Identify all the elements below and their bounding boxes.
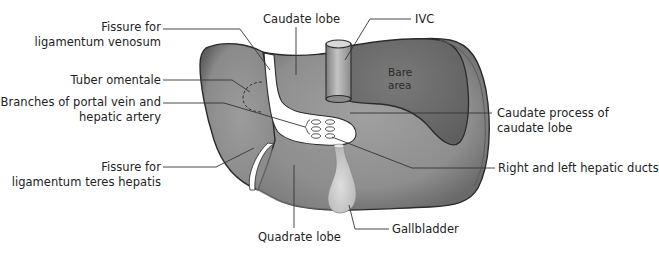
label-fissure-teres-line2: ligamentum teres hepatis	[12, 175, 161, 190]
label-fissure-venosum: Fissure for ligamentum venosum	[34, 20, 161, 50]
label-caudate-process: Caudate process of caudate lobe	[497, 106, 609, 136]
label-fissure-venosum-line2: ligamentum venosum	[34, 35, 161, 50]
label-quadrate-lobe: Quadrate lobe	[258, 230, 341, 245]
label-bare-area-line1: Bare	[388, 66, 412, 79]
label-tuber-omentale: Tuber omentale	[71, 73, 161, 88]
ivc-cylinder	[326, 40, 351, 103]
label-ivc: IVC	[415, 12, 434, 27]
label-portal-branches: Branches of portal vein and hepatic arte…	[0, 95, 161, 125]
label-caudate-process-line1: Caudate process of	[497, 106, 609, 121]
label-fissure-venosum-line1: Fissure for	[34, 20, 161, 35]
label-portal-branches-line1: Branches of portal vein and	[0, 95, 161, 110]
label-portal-branches-line2: hepatic artery	[0, 110, 161, 125]
label-fissure-teres: Fissure for ligamentum teres hepatis	[12, 160, 161, 190]
label-caudate-lobe: Caudate lobe	[263, 12, 340, 27]
label-hepatic-ducts: Right and left hepatic ducts	[498, 161, 659, 176]
label-bare-area-line2: area	[388, 79, 412, 92]
label-fissure-teres-line1: Fissure for	[12, 160, 161, 175]
label-caudate-process-line2: caudate lobe	[497, 121, 609, 136]
label-gallbladder: Gallbladder	[392, 222, 459, 237]
label-bare-area: Bare area	[388, 66, 412, 92]
